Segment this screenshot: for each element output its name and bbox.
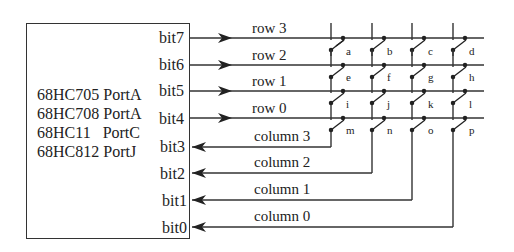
bit1-label: bit1: [162, 193, 187, 209]
column-1-label: column 1: [254, 182, 310, 197]
key-label: i: [346, 99, 349, 110]
chip-port-label: 68HC705 PortA: [37, 85, 141, 104]
key-label: g: [428, 72, 434, 83]
key-label: j: [387, 99, 390, 110]
key-label: l: [469, 99, 472, 110]
column-3-label: column 3: [254, 129, 310, 144]
chip-port-list: 68HC705 PortA 68HC708 PortA 68HC11 PortC…: [37, 85, 141, 161]
key-label: m: [346, 125, 355, 136]
bit6-label: bit6: [159, 57, 184, 73]
chip-port-label: 68HC708 PortA: [37, 104, 141, 123]
key-label: n: [387, 125, 393, 136]
key-label: k: [428, 99, 434, 110]
row-1-label: row 1: [252, 74, 287, 89]
bit2-label: bit2: [160, 166, 185, 182]
chip-port-label: 68HC11 PortC: [37, 123, 141, 142]
bit4-label: bit4: [159, 111, 184, 127]
key-label: o: [428, 125, 434, 136]
column-0-label: column 0: [254, 209, 310, 224]
key-label: c: [428, 46, 433, 57]
key-label: e: [346, 72, 351, 83]
bit7-label: bit7: [159, 30, 184, 46]
key-label: a: [346, 46, 351, 57]
bit5-label: bit5: [159, 83, 184, 99]
chip-port-label: 68HC812 PortJ: [37, 142, 141, 161]
key-label: d: [469, 46, 475, 57]
key-label: p: [469, 125, 475, 136]
key-label: b: [387, 46, 393, 57]
key-label: h: [469, 72, 475, 83]
row-0-label: row 0: [252, 101, 287, 116]
key-label: f: [387, 72, 391, 83]
bit0-label: bit0: [162, 220, 187, 236]
keypad-matrix-diagram: 68HC705 PortA 68HC708 PortA 68HC11 PortC…: [0, 0, 514, 252]
column-2-label: column 2: [254, 155, 310, 170]
row-3-label: row 3: [252, 21, 287, 36]
row-2-label: row 2: [252, 48, 287, 63]
bit3-label: bit3: [160, 139, 185, 155]
